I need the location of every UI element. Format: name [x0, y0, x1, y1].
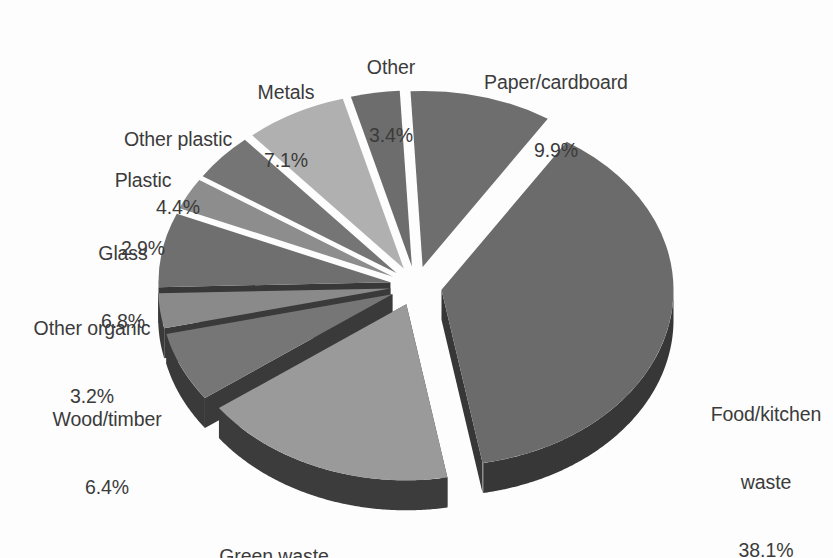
slice-label-other-value: 3.4% — [336, 124, 446, 147]
slice-label-metals-name: Metals — [224, 81, 348, 104]
slice-label-paper-cardboard-value: 9.9% — [466, 139, 646, 162]
slice-label-green-waste: Green waste 17.8% — [186, 500, 362, 558]
slice-label-food-kitchen-waste-value: 38.1% — [699, 539, 833, 558]
slice-label-paper-cardboard: Paper/cardboard 9.9% — [466, 26, 646, 207]
pie-chart: Paper/cardboard 9.9% Food/kitchen waste … — [0, 0, 833, 558]
slice-label-green-waste-name: Green waste — [186, 545, 362, 558]
slice-label-other-organic-value: 3.2% — [9, 385, 175, 408]
slice-label-other-name: Other — [336, 56, 446, 79]
slice-label-metals: Metals 7.1% — [224, 36, 348, 217]
slice-label-other: Other 3.4% — [336, 11, 446, 192]
slice-label-metals-value: 7.1% — [224, 149, 348, 172]
slice-label-food-kitchen-waste-name-line1: Food/kitchen — [699, 403, 833, 426]
slice-label-wood-timber-value: 6.4% — [25, 476, 189, 499]
slice-label-food-kitchen-waste: Food/kitchen waste 38.1% — [699, 358, 833, 558]
slice-label-paper-cardboard-name: Paper/cardboard — [466, 71, 646, 94]
slice-label-food-kitchen-waste-name-line2: waste — [699, 471, 833, 494]
slice-label-glass-value: 6.8% — [63, 310, 183, 333]
